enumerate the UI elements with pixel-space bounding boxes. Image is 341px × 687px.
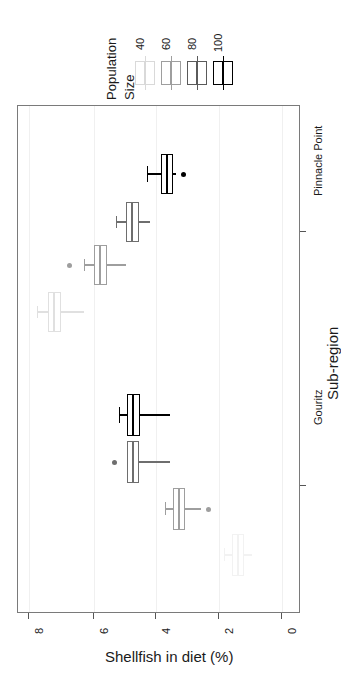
legend-label-80: 80 [186, 38, 198, 50]
x-tick-label-4: 4 [160, 628, 172, 634]
y-axis-title: Sub-region [324, 327, 341, 400]
x-tick [155, 613, 156, 619]
whisker-cap [119, 407, 120, 423]
y-tick [300, 231, 306, 232]
outlier-point [206, 507, 211, 512]
boxplot-pinnaclepoint-80 [110, 202, 180, 242]
legend-title-line1: Population [104, 38, 119, 100]
x-tick-label-6: 6 [98, 628, 110, 634]
x-tick [281, 613, 282, 619]
outlier-point [112, 460, 117, 465]
y-tick-label-gouritz: Gouritz [312, 390, 324, 425]
boxplot-gouritz-40 [218, 534, 278, 576]
whisker-cap [224, 548, 225, 561]
outlier-point [181, 172, 186, 177]
legend-median [144, 61, 145, 85]
legend-label-40: 40 [134, 38, 146, 50]
y-axis-ticks [300, 105, 308, 613]
boxplot-gouritz-60 [158, 488, 228, 530]
boxplot-gouritz-80 [106, 441, 186, 483]
legend-key-100 [212, 56, 234, 90]
legend-key-40 [134, 56, 156, 90]
x-tick [218, 613, 219, 619]
median-line [237, 534, 239, 576]
legend-median [222, 61, 223, 85]
whisker-cap [116, 216, 117, 228]
x-tick [93, 613, 94, 619]
legend: Population Size 40 60 80 100 [88, 4, 228, 100]
gridline [282, 106, 283, 612]
legend-median [170, 61, 171, 85]
legend-label-60: 60 [160, 38, 172, 50]
x-axis-title: Shellfish in diet (%) [105, 648, 233, 665]
x-tick-label-2: 2 [223, 628, 235, 634]
x-tick-label-0: 0 [286, 628, 298, 634]
boxplot-pinnaclepoint-100 [130, 154, 200, 194]
y-tick-label-pinnacle-point: Pinnacle Point [312, 126, 324, 196]
boxplot-pinnaclepoint-40 [32, 292, 102, 332]
median-line [132, 441, 134, 483]
x-tick-label-8: 8 [33, 628, 45, 634]
whisker-cap [84, 259, 85, 271]
boxplot-gouritz-100 [110, 394, 190, 436]
boxplot-pinnaclepoint-60 [62, 245, 142, 285]
median-line [99, 245, 101, 285]
median-line [132, 394, 134, 436]
legend-median [196, 61, 197, 85]
median-line [131, 202, 133, 242]
y-tick [300, 485, 306, 486]
gridline [94, 106, 95, 612]
whisker-cap [165, 502, 166, 515]
outlier-point [67, 263, 72, 268]
x-tick [28, 613, 29, 619]
legend-key-80 [186, 56, 208, 90]
gridline [29, 106, 30, 612]
x-axis-ticks [17, 613, 300, 621]
legend-key-60 [160, 56, 182, 90]
whisker-cap [37, 306, 38, 318]
median-line [166, 154, 168, 194]
median-line [178, 488, 180, 530]
legend-label-100: 100 [212, 34, 224, 52]
plot-panel [17, 105, 300, 613]
median-line [53, 292, 55, 332]
whisker-cap [147, 166, 148, 182]
